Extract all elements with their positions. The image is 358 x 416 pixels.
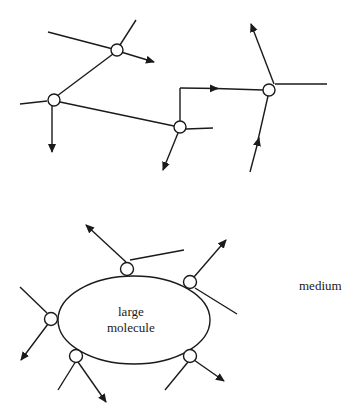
large-molecule-label-line2: molecule — [107, 320, 155, 336]
path-a-b — [57, 54, 113, 96]
path-c-right — [186, 128, 213, 129]
arrow-lower-right-out — [194, 360, 224, 381]
collision-left — [45, 313, 58, 326]
path-b-c — [60, 102, 174, 126]
collision-lower-left — [70, 350, 83, 363]
path-into-d-arrow — [250, 138, 259, 172]
arrow-out-of-a — [121, 52, 154, 62]
path-lower-right-in — [165, 362, 188, 390]
arrow-out-of-d — [251, 24, 274, 84]
path-a-up — [120, 20, 136, 45]
collision-diagram — [0, 0, 358, 416]
medium-label: medium — [299, 278, 342, 294]
collision-lower-right — [184, 350, 197, 363]
path-to-d-arrow — [180, 88, 218, 89]
path-b-left — [20, 101, 47, 104]
path-left-in — [20, 287, 47, 313]
collision-b — [48, 94, 60, 106]
collision-d — [263, 84, 275, 96]
arrow-upper-right-out — [194, 240, 226, 277]
arrow-lower-left-out — [78, 362, 106, 402]
path-into-d — [258, 96, 268, 140]
collision-top — [121, 263, 134, 276]
path-lower-left-in — [58, 361, 76, 390]
arrow-top-out — [86, 225, 126, 262]
path-top-right — [130, 250, 184, 260]
large-molecule-label-line1: large — [118, 304, 144, 320]
path-to-d — [216, 89, 263, 91]
collision-upper-right — [184, 276, 197, 289]
top-gas-collisions — [20, 20, 327, 172]
arrow-left-out — [21, 324, 48, 360]
arrow-out-of-c — [163, 133, 178, 170]
collision-c — [174, 121, 186, 133]
path-into-a — [48, 32, 113, 49]
